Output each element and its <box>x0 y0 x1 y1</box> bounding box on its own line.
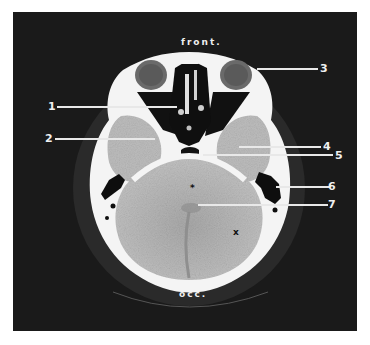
leader-line-3 <box>257 68 318 70</box>
label-6: 6 <box>328 181 336 192</box>
orientation-occipital-label: occ. <box>179 289 207 299</box>
ct-scan-panel: front. occ. * x 1 2 3 4 5 6 7 <box>13 12 357 331</box>
cross-marker: x <box>233 228 239 237</box>
leader-line-1 <box>57 106 177 108</box>
label-7: 7 <box>328 199 336 210</box>
label-3: 3 <box>320 63 328 74</box>
leader-line-6 <box>276 186 330 188</box>
label-2: 2 <box>45 133 53 144</box>
ct-scan-image <box>13 12 357 331</box>
orientation-front-label: front. <box>181 37 222 47</box>
leader-line-4 <box>239 146 321 148</box>
leader-line-7 <box>198 204 328 206</box>
label-5: 5 <box>335 150 343 161</box>
label-1: 1 <box>48 101 56 112</box>
asterisk-marker: * <box>190 184 195 193</box>
leader-line-5 <box>203 154 333 156</box>
leader-line-2 <box>55 138 155 140</box>
label-4: 4 <box>323 141 331 152</box>
